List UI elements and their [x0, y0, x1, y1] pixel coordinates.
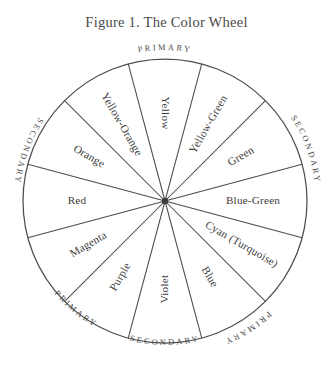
wedge-divider	[128, 201, 165, 338]
ring-label-upper-left: SECONDARY	[13, 116, 45, 185]
wedge-label-group: YellowYellow-GreenGreenBlue-GreenCyan (T…	[67, 90, 280, 303]
wedge-label-violet: Violet	[158, 274, 170, 303]
wedge-label-green: Green	[225, 143, 256, 168]
ring-label-upper-right-text: SECONDARY	[289, 114, 322, 185]
wedge-label-blue-green: Blue-Green	[226, 194, 280, 206]
ring-label-bottom: SECONDARY	[129, 334, 201, 347]
wedge-label-red: Red	[68, 194, 87, 206]
wedge-divider	[165, 201, 202, 338]
color-wheel-figure: Figure 1. The Color Wheel YellowYellow-G…	[0, 0, 333, 383]
ring-label-upper-right: SECONDARY	[289, 114, 322, 185]
ring-label-lower-right-text: PRIMARY	[223, 310, 273, 347]
wedge-label-yellow: Yellow	[160, 96, 172, 130]
ring-label-lower-right: PRIMARY	[223, 310, 273, 347]
wedge-label-orange: Orange	[72, 142, 108, 169]
ring-label-top: PRIMARY	[137, 43, 193, 54]
wedge-divider	[28, 164, 165, 201]
wedge-label-purple: Purple	[107, 260, 133, 292]
wedge-label-magenta: Magenta	[67, 228, 108, 259]
ring-label-bottom-text: SECONDARY	[129, 334, 201, 347]
wedge-label-yellow-green: Yellow-Green	[186, 93, 229, 156]
ring-label-top-text: PRIMARY	[137, 43, 193, 54]
wedge-label-blue: Blue	[200, 264, 221, 289]
wedge-label-cyan-turquoise: Cyan (Turquoise)	[203, 218, 281, 270]
ring-label-upper-left-text: SECONDARY	[13, 116, 45, 185]
ring-label-lower-left-text: PRIMARY	[53, 289, 99, 329]
color-wheel-diagram: YellowYellow-GreenGreenBlue-GreenCyan (T…	[0, 0, 333, 383]
wheel-center-hub	[162, 198, 168, 204]
ring-label-lower-left: PRIMARY	[53, 289, 99, 329]
